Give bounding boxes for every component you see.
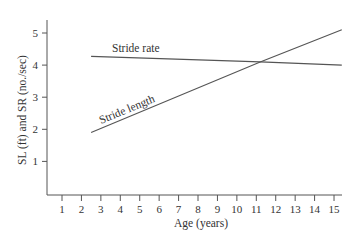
y-tick-label: 5 [33,27,39,39]
x-tick-label: 14 [309,203,321,215]
chart-canvas: 12345 123456789101112131415 Age (years) … [0,0,357,239]
stride-rate-label: Stride rate [112,42,160,54]
y-tick-label: 4 [33,59,39,71]
stride-length-label: Stride length [97,92,157,127]
x-tick-label: 12 [270,203,281,215]
x-tick-label: 15 [329,203,341,215]
y-tick-label: 3 [33,91,39,103]
x-axis-label: Age (years) [174,217,228,230]
x-tick-label: 13 [290,203,302,215]
x-tick-label: 10 [231,203,243,215]
x-tick-label: 6 [156,203,162,215]
y-tick-label: 1 [33,155,39,167]
x-ticks: 123456789101112131415 [59,195,340,215]
y-axis-label: SL (ft) and SR (no./sec) [16,55,29,165]
x-tick-label: 7 [176,203,182,215]
y-ticks: 12345 [33,27,48,167]
x-tick-label: 2 [79,203,85,215]
x-tick-label: 5 [137,203,143,215]
stride-rate-line [91,56,342,65]
axes [47,20,342,195]
y-tick-label: 2 [33,123,39,135]
x-tick-label: 8 [195,203,201,215]
x-tick-label: 11 [251,203,262,215]
x-tick-label: 9 [215,203,221,215]
line-chart: 12345 123456789101112131415 Age (years) … [0,0,357,239]
x-tick-label: 1 [59,203,65,215]
x-tick-label: 3 [98,203,104,215]
x-tick-label: 4 [118,203,124,215]
